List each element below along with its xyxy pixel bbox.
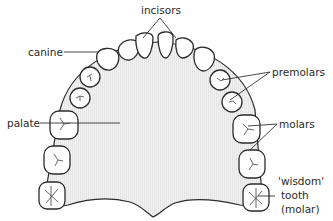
label-molars: molars: [279, 118, 315, 130]
label-canine: canine: [28, 46, 63, 58]
dental-arch-diagram: [0, 0, 333, 221]
label-wisdom-line2: tooth: [281, 189, 309, 201]
label-wisdom-line3: (molar): [281, 203, 320, 215]
label-palate: palate: [7, 117, 40, 129]
label-premolars: premolars: [272, 66, 325, 78]
label-wisdom-line1: 'wisdom': [278, 175, 324, 187]
label-incisors: incisors: [141, 4, 181, 16]
